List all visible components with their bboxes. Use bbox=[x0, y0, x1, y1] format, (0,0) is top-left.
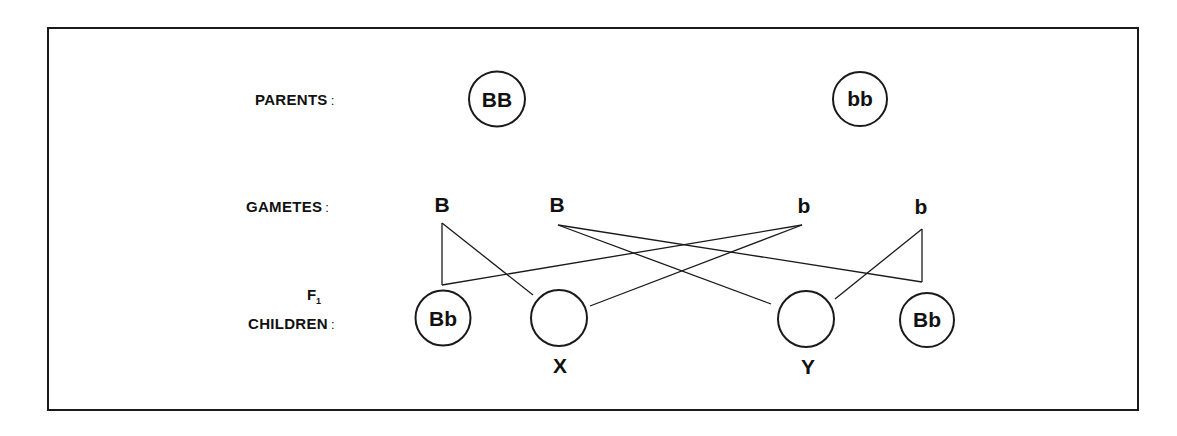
child-x-circle bbox=[530, 289, 588, 347]
parent-bb-recessive-circle: bb bbox=[832, 71, 888, 127]
child-1-circle: Bb bbox=[415, 290, 472, 347]
cross-lines bbox=[0, 0, 1177, 436]
gametes-row-label: GAMETES: bbox=[246, 198, 329, 215]
parents-row-label: PARENTS: bbox=[255, 91, 335, 108]
label-x: X bbox=[553, 354, 567, 378]
children-label-text: CHILDREN bbox=[248, 315, 328, 332]
f1-text: F bbox=[307, 286, 316, 303]
gamete-1: B bbox=[434, 193, 449, 217]
parent-2-genotype: bb bbox=[847, 87, 873, 111]
colon: : bbox=[325, 200, 329, 215]
parent-bb-dominant-circle: BB bbox=[468, 71, 526, 128]
gamete-2: B bbox=[549, 193, 564, 217]
gamete-4: b bbox=[915, 195, 928, 219]
parents-label-text: PARENTS bbox=[255, 91, 328, 108]
colon: : bbox=[331, 93, 335, 108]
child-1-genotype: Bb bbox=[429, 306, 457, 330]
f1-label: F1 bbox=[307, 286, 321, 306]
connection-gamete-1-to-child-2 bbox=[442, 223, 533, 295]
children-row-label: CHILDREN: bbox=[248, 315, 335, 332]
parent-1-genotype: BB bbox=[482, 87, 512, 111]
colon: : bbox=[331, 317, 335, 332]
connection-gamete-2-to-child-3 bbox=[558, 225, 771, 304]
f1-subscript: 1 bbox=[316, 296, 321, 306]
child-4-genotype: Bb bbox=[913, 308, 941, 332]
gamete-3: b bbox=[798, 194, 811, 218]
connection-gamete-3-to-child-2 bbox=[590, 225, 802, 306]
label-y: Y bbox=[801, 355, 815, 379]
gametes-label-text: GAMETES bbox=[246, 198, 322, 215]
child-y-circle bbox=[777, 290, 835, 348]
connection-gamete-4-to-child-3 bbox=[835, 229, 922, 299]
child-4-circle: Bb bbox=[899, 292, 955, 348]
